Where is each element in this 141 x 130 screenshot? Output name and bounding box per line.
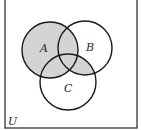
label-a: A: [39, 42, 48, 55]
label-c: C: [64, 82, 73, 95]
venn-diagram: A B C U: [0, 0, 141, 130]
label-b: B: [85, 41, 94, 54]
label-universe: U: [8, 115, 18, 128]
